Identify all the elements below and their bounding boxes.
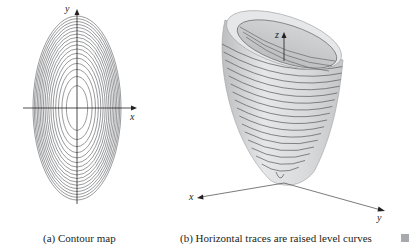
x-axis-arrow bbox=[131, 106, 137, 111]
caption-a: (a) Contour map bbox=[43, 232, 116, 244]
surface-panel: z x y (b) Horizontal traces are raised l… bbox=[175, 0, 410, 250]
contour-map-figure bbox=[0, 0, 170, 250]
x-axis-line bbox=[201, 183, 284, 197]
x-axis-label-3d: x bbox=[189, 191, 193, 202]
paraboloid-figure bbox=[175, 0, 410, 250]
contour-map-panel: y x (a) Contour map bbox=[0, 0, 170, 250]
y-axis-arrow bbox=[75, 9, 80, 15]
y-axis-line bbox=[284, 183, 381, 210]
y-axis-arrow bbox=[378, 207, 386, 212]
y-axis-label-3d: y bbox=[377, 212, 381, 223]
caption-b: (b) Horizontal traces are raised level c… bbox=[180, 232, 372, 244]
x-axis-label: x bbox=[130, 111, 134, 122]
x-axis-arrow bbox=[197, 195, 204, 200]
z-axis-label: z bbox=[275, 29, 279, 40]
page-marker bbox=[401, 234, 409, 242]
y-axis-label: y bbox=[65, 3, 69, 14]
